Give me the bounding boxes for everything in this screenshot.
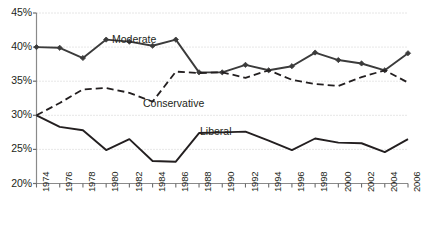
x-tick-label: 1994 — [273, 171, 283, 191]
x-tick-label: 1982 — [134, 171, 144, 191]
series-label-conservative: Conservative — [143, 98, 204, 109]
x-tick-label: 2004 — [389, 171, 399, 191]
y-tick-label: 45% — [0, 7, 32, 18]
data-point-marker — [336, 57, 341, 62]
x-tick-label: 1996 — [296, 171, 306, 191]
y-tick-label: 20% — [0, 178, 32, 189]
x-tick-label: 1998 — [319, 171, 329, 191]
x-tick-label: 1990 — [226, 171, 236, 191]
data-point-marker — [243, 62, 248, 67]
series-line-moderate — [37, 40, 409, 73]
x-tick-label: 1988 — [203, 171, 213, 191]
x-tick-label: 1978 — [87, 171, 97, 191]
data-point-marker — [359, 61, 364, 66]
x-tick-label: 1992 — [250, 171, 260, 191]
x-tick-label: 2000 — [343, 171, 353, 191]
x-tick-label: 1986 — [180, 171, 190, 191]
x-tick-label: 2006 — [412, 171, 422, 191]
data-point-marker — [34, 45, 39, 50]
x-tick-label: 1984 — [157, 171, 167, 191]
series-layer — [34, 37, 411, 162]
y-tick-label: 35% — [0, 75, 32, 86]
series-line-conservative — [37, 70, 409, 115]
y-tick-label: 25% — [0, 143, 32, 154]
y-tick-label: 30% — [0, 109, 32, 120]
x-tick-label: 1974 — [41, 171, 51, 191]
gridlines-group — [37, 13, 409, 184]
y-tick-label: 40% — [0, 41, 32, 52]
x-tick-label: 2002 — [366, 171, 376, 191]
series-label-liberal: Liberal — [200, 126, 232, 137]
axes-group — [37, 13, 409, 184]
x-tick-label: 1976 — [64, 171, 74, 191]
series-line-liberal — [37, 115, 409, 161]
x-tick-label: 1980 — [110, 171, 120, 191]
series-label-moderate: Moderate — [112, 34, 156, 45]
